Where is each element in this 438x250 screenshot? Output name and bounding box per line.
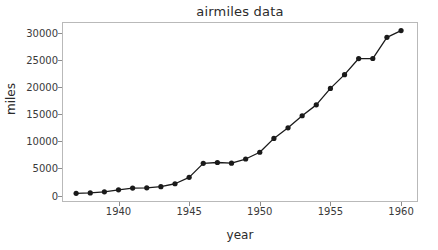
data-point-marker: 1957: 25340 <box>356 56 361 61</box>
data-point-marker: 1958: 25343 <box>370 56 375 61</box>
y-tick-label: 0 <box>6 190 58 201</box>
cropped-caption-artifact <box>0 243 438 250</box>
x-tick-mark <box>401 202 402 206</box>
data-point-marker: 1959: 29269 <box>384 35 389 40</box>
data-point-marker: 1939: 683 <box>102 189 107 194</box>
x-tick-mark <box>189 202 190 206</box>
data-point-marker: 1951: 10566 <box>271 136 276 141</box>
data-point-marker: 1949: 6753 <box>243 156 248 161</box>
data-point-marker: 1956: 22362 <box>342 72 347 77</box>
y-tick-label: 10000 <box>6 136 58 147</box>
data-point-marker: 1944: 2178 <box>172 181 177 186</box>
y-tick-label: 5000 <box>6 163 58 174</box>
data-point-marker: 1960: 30514 <box>398 28 403 33</box>
figure-canvas: airmiles data miles 05000100001500020000… <box>0 0 438 250</box>
y-tick-label: 30000 <box>6 28 58 39</box>
data-point-marker: 1938: 480 <box>88 190 93 195</box>
data-point-marker: 1946: 5948 <box>201 161 206 166</box>
data-point-marker: 1940: 1052 <box>116 187 121 192</box>
data-point-marker: 1947: 6109 <box>215 160 220 165</box>
x-tick-mark <box>330 202 331 206</box>
x-axis-label: year <box>62 228 418 242</box>
y-tick-label: 20000 <box>6 82 58 93</box>
y-tick-label: 15000 <box>6 109 58 120</box>
data-point-marker: 1943: 1634 <box>158 184 163 189</box>
data-series-airmiles: 1937: 4121938: 4801939: 6831940: 1052194… <box>62 22 418 202</box>
data-point-marker: 1954: 16769 <box>314 102 319 107</box>
data-point-marker: 1945: 3362 <box>187 175 192 180</box>
data-point-marker: 1937: 412 <box>74 191 79 196</box>
data-point-marker: 1953: 14760 <box>300 113 305 118</box>
series-line <box>76 31 401 194</box>
data-point-marker: 1941: 1385 <box>130 185 135 190</box>
x-tick-mark <box>260 202 261 206</box>
y-tick-label: 25000 <box>6 55 58 66</box>
y-axis-label: miles <box>4 69 18 129</box>
x-tick-mark <box>119 202 120 206</box>
data-point-marker: 1952: 12528 <box>285 125 290 130</box>
x-tick-label: 1945 <box>167 206 211 217</box>
data-point-marker: 1942: 1418 <box>144 185 149 190</box>
x-tick-label: 1940 <box>97 206 141 217</box>
x-tick-label: 1950 <box>238 206 282 217</box>
chart-title: airmiles data <box>62 4 418 19</box>
data-point-marker: 1948: 5981 <box>229 161 234 166</box>
data-point-marker: 1955: 19819 <box>328 86 333 91</box>
data-point-marker: 1950: 8003 <box>257 150 262 155</box>
x-tick-label: 1960 <box>379 206 423 217</box>
x-tick-label: 1955 <box>308 206 352 217</box>
